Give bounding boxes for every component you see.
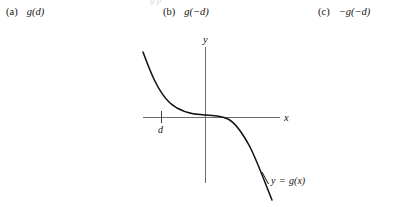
- answer-choice-a[interactable]: (a)g(d): [6, 5, 44, 19]
- curve-label-y-equals-g-of-x: y=g(x): [270, 175, 306, 187]
- x-axis-label: x: [283, 112, 289, 123]
- answer-choice-c[interactable]: (c)−g(−d): [318, 5, 370, 19]
- worksheet-page: g p (a)g(d) (b)g(−d) (c)−g(−d) y: [0, 0, 401, 207]
- answer-choice-c-tag: (c): [318, 6, 330, 17]
- answer-choice-b[interactable]: (b)g(−d): [163, 5, 209, 19]
- y-axis-label: y: [202, 34, 208, 45]
- answer-choice-a-expression: g(d): [27, 6, 45, 17]
- graph-figure: y x d y=g(x): [0, 26, 401, 207]
- answer-choice-row: (a)g(d) (b)g(−d) (c)−g(−d): [0, 0, 401, 26]
- answer-choice-b-expression: g(−d): [184, 6, 209, 17]
- curve-label-equals: =: [279, 175, 285, 186]
- curve-label-rhs: g(x): [289, 175, 306, 187]
- graph-svg: y x d y=g(x): [0, 26, 401, 207]
- x-axis-tick-label-d: d: [158, 124, 164, 135]
- answer-choice-b-tag: (b): [163, 6, 175, 17]
- answer-choice-a-tag: (a): [6, 6, 18, 17]
- curve-label-lhs: y: [270, 175, 276, 186]
- answer-choice-c-expression: −g(−d): [339, 6, 371, 17]
